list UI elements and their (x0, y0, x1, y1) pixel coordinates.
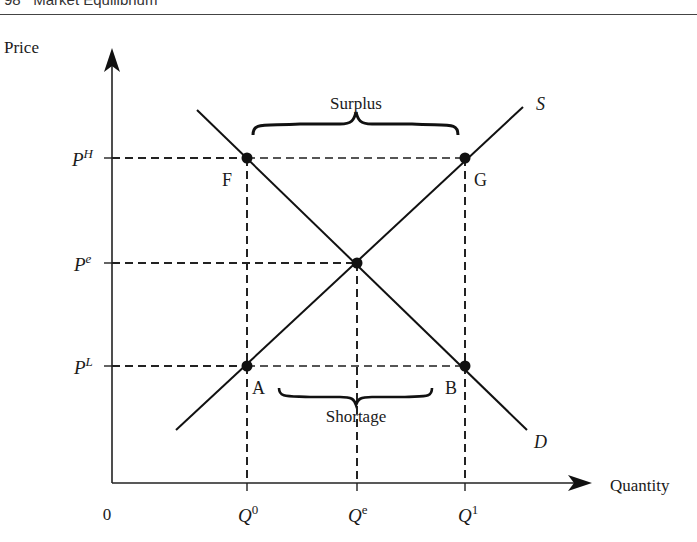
equilibrium-diagram: Price Quantity 0 PH Pe PL Q0 Qe Q1 F G A… (0, 0, 697, 542)
price-label-high: PH (71, 146, 94, 170)
price-label-equilibrium: Pe (73, 251, 92, 275)
point-f (242, 153, 253, 164)
x-axis-label: Quantity (610, 476, 670, 495)
x-ticks (247, 483, 465, 491)
point-g (460, 153, 471, 164)
quantity-label-q1: Q1 (458, 502, 478, 526)
quantity-label-qe: Qe (348, 502, 368, 526)
shortage-brace (279, 388, 432, 405)
surplus-label: Surplus (330, 94, 382, 113)
guide-lines (112, 158, 465, 483)
y-axis-label: Price (4, 38, 39, 57)
supply-curve (176, 107, 523, 430)
point-b (460, 361, 471, 372)
shortage-label: Shortage (326, 407, 386, 426)
demand-label: D (533, 432, 547, 452)
supply-label: S (536, 94, 545, 114)
point-a (242, 361, 253, 372)
price-label-low: PL (73, 354, 93, 378)
surplus-brace (253, 112, 458, 135)
point-label-f: F (222, 170, 232, 190)
y-ticks (104, 158, 112, 366)
point-equilibrium (352, 258, 363, 269)
quantity-label-q0: Q0 (238, 502, 258, 526)
point-label-a: A (252, 378, 265, 398)
point-label-g: G (474, 170, 487, 190)
origin-label: 0 (103, 505, 112, 524)
point-label-b: B (445, 378, 457, 398)
